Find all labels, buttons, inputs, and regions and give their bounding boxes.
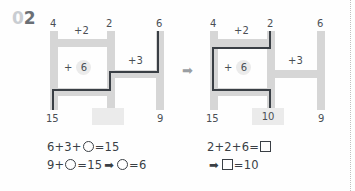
right-eq2-post: =10 bbox=[234, 158, 259, 172]
right-route-across-bottom bbox=[212, 89, 271, 91]
right-eq1-square bbox=[260, 141, 271, 152]
left-eq2-circle-a bbox=[65, 159, 76, 170]
left-bottom-number-1: 15 bbox=[46, 114, 59, 124]
right-equation-line-1: 2+2+6= bbox=[207, 138, 272, 156]
worksheet-page: 02 4 2 6 +2 +3 + 6 15 9 bbox=[0, 0, 355, 191]
left-route-down-col1 bbox=[52, 89, 54, 110]
left-top-number-3: 6 bbox=[156, 19, 162, 29]
right-eq2-arrow-icon: ➡ bbox=[209, 156, 219, 174]
left-equations: 6+3+=15 9+=15➡=6 bbox=[47, 138, 146, 174]
left-pipe-horizontal-top bbox=[50, 39, 115, 47]
left-eq2-arrow-icon: ➡ bbox=[104, 156, 114, 174]
right-diagram-panel: 4 2 6 +2 +3 + 6 15 10 9 2+2+6= ➡=10 bbox=[177, 0, 355, 191]
left-route-across-bottom bbox=[52, 89, 111, 91]
left-inner-plus6: + 6 bbox=[64, 60, 91, 75]
left-route-up-col3 bbox=[157, 31, 159, 72]
right-equation-line-2: ➡=10 bbox=[207, 156, 272, 174]
right-equations: 2+2+6= ➡=10 bbox=[207, 138, 272, 174]
right-top-number-1: 4 bbox=[210, 19, 216, 29]
left-eq2-circle-b bbox=[117, 159, 128, 170]
left-inner-plus-sign: + bbox=[64, 62, 72, 73]
right-route-down-col2-top bbox=[269, 31, 271, 48]
left-eq1-pre: 6+3+ bbox=[47, 140, 82, 154]
right-pipe-horizontal-right bbox=[267, 70, 324, 78]
left-top-number-2: 2 bbox=[106, 19, 112, 29]
left-answer-box[interactable] bbox=[92, 108, 124, 125]
right-label-plus3: +3 bbox=[288, 56, 303, 66]
left-top-number-1: 4 bbox=[50, 19, 56, 29]
right-inner-value-bubble: 6 bbox=[236, 60, 251, 75]
left-eq2-mid: =15 bbox=[77, 158, 102, 172]
left-route-up-col2 bbox=[109, 71, 111, 90]
left-label-plus3: +3 bbox=[128, 56, 143, 66]
left-diagram-panel: 4 2 6 +2 +3 + 6 15 9 6+3+=15 bbox=[0, 0, 178, 191]
right-route-down-col2-bottom bbox=[269, 89, 271, 110]
left-inner-value-bubble: 6 bbox=[76, 60, 91, 75]
left-eq2-pre: 9+ bbox=[47, 158, 64, 172]
right-top-number-3: 6 bbox=[317, 19, 323, 29]
right-answer-box[interactable]: 10 bbox=[252, 108, 284, 125]
right-route-across-top bbox=[212, 47, 271, 49]
right-top-number-2: 2 bbox=[267, 19, 273, 29]
left-route-across-right bbox=[109, 71, 159, 73]
right-inner-plus6: + 6 bbox=[224, 60, 251, 75]
right-inner-plus-sign: + bbox=[224, 62, 232, 73]
right-label-plus2: +2 bbox=[234, 26, 249, 36]
right-eq1-pre: 2+2+6= bbox=[207, 140, 259, 154]
left-eq2-post: =6 bbox=[129, 158, 146, 172]
right-route-down-col1 bbox=[212, 47, 214, 90]
right-pipe-horizontal-top bbox=[210, 39, 275, 47]
left-eq1-post: =15 bbox=[95, 140, 120, 154]
left-eq1-circle bbox=[83, 141, 94, 152]
right-bottom-number-3: 9 bbox=[318, 114, 324, 124]
right-eq2-square bbox=[222, 159, 233, 170]
left-label-plus2: +2 bbox=[74, 26, 89, 36]
left-equation-line-2: 9+=15➡=6 bbox=[47, 156, 146, 174]
left-bottom-number-3: 9 bbox=[157, 114, 163, 124]
right-bottom-number-1: 15 bbox=[206, 114, 219, 124]
left-equation-line-1: 6+3+=15 bbox=[47, 138, 146, 156]
